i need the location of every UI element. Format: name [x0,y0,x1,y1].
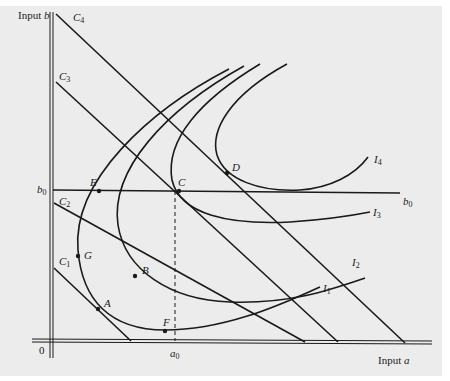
point-b-label: B [142,265,149,276]
point-f-label: F [163,317,170,328]
i2-label: I2 [352,257,360,270]
b0-line-label: b0 [403,196,413,209]
diagram-canvas [0,0,450,381]
point-d-label: D [232,162,240,173]
b0-line [53,190,400,193]
isocost-line-c4 [56,14,405,343]
point-d [225,171,229,175]
point-c-label: C [178,177,185,188]
point-e [97,189,101,193]
y-axis [50,12,53,358]
b0-axis-label: b0 [37,184,47,197]
i1-label: I1 [323,283,331,296]
i4-label: I4 [374,154,382,167]
isocost-line-c3 [56,82,338,342]
point-g-label: G [84,250,92,261]
i3-label: I3 [373,207,381,220]
point-f [163,329,167,333]
isoquant-i3 [171,64,370,223]
c3-label: C3 [59,71,70,84]
x-axis [32,339,432,344]
isocost-line-c1 [54,268,131,341]
c4-label: C4 [73,12,84,25]
point-a-label: A [104,298,111,309]
points [76,171,229,333]
c1-label: C1 [59,256,70,269]
point-b [133,274,137,278]
a0-label: a0 [170,348,180,361]
c2-label: C2 [59,196,70,209]
isocost-line-c2 [54,203,305,342]
origin-label: 0 [39,345,45,356]
x-axis-label: Input a [378,355,409,366]
point-g [76,254,80,258]
point-c [177,189,181,193]
y-axis-label: Input b [18,10,49,21]
point-a [96,307,100,311]
point-e-label: E [90,177,97,188]
